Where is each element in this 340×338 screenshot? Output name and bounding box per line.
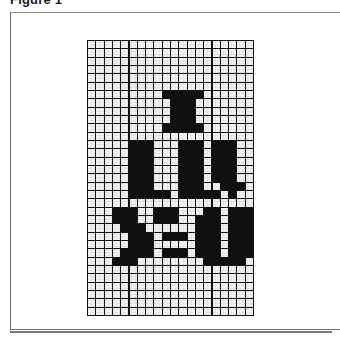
grid-cell[interactable] (163, 91, 170, 98)
grid-cell[interactable] (163, 49, 170, 56)
grid-cell[interactable] (113, 283, 120, 290)
grid-cell[interactable] (221, 208, 228, 215)
grid-cell[interactable] (96, 149, 103, 156)
grid-cell[interactable] (146, 258, 153, 265)
grid-cell[interactable] (113, 224, 120, 231)
grid-cell[interactable] (113, 141, 120, 148)
grid-cell[interactable] (130, 41, 137, 48)
grid-cell[interactable] (105, 166, 112, 173)
grid-cell[interactable] (204, 208, 211, 215)
grid-cell[interactable] (237, 216, 244, 223)
grid-cell[interactable] (221, 91, 228, 98)
grid-cell[interactable] (130, 224, 137, 231)
grid-cell[interactable] (229, 199, 236, 206)
grid-cell[interactable] (196, 274, 203, 281)
grid-cell[interactable] (121, 208, 128, 215)
grid-cell[interactable] (113, 299, 120, 306)
grid-cell[interactable] (213, 283, 220, 290)
grid-cell[interactable] (188, 224, 195, 231)
grid-cell[interactable] (138, 174, 145, 181)
grid-cell[interactable] (188, 299, 195, 306)
grid-cell[interactable] (171, 133, 178, 140)
grid-cell[interactable] (154, 133, 161, 140)
grid-cell[interactable] (179, 308, 186, 315)
grid-cell[interactable] (113, 174, 120, 181)
grid-cell[interactable] (154, 208, 161, 215)
grid-cell[interactable] (96, 266, 103, 273)
grid-cell[interactable] (246, 249, 253, 256)
grid-cell[interactable] (229, 208, 236, 215)
grid-cell[interactable] (179, 108, 186, 115)
grid-cell[interactable] (179, 216, 186, 223)
grid-cell[interactable] (163, 174, 170, 181)
grid-cell[interactable] (130, 274, 137, 281)
grid-cell[interactable] (229, 66, 236, 73)
grid-cell[interactable] (88, 208, 95, 215)
grid-cell[interactable] (121, 174, 128, 181)
grid-cell[interactable] (113, 216, 120, 223)
grid-cell[interactable] (163, 149, 170, 156)
grid-cell[interactable] (113, 291, 120, 298)
grid-cell[interactable] (96, 241, 103, 248)
grid-cell[interactable] (246, 141, 253, 148)
grid-cell[interactable] (246, 149, 253, 156)
grid-cell[interactable] (221, 266, 228, 273)
grid-cell[interactable] (188, 41, 195, 48)
grid-cell[interactable] (96, 258, 103, 265)
grid-cell[interactable] (121, 283, 128, 290)
grid-cell[interactable] (188, 58, 195, 65)
grid-cell[interactable] (146, 308, 153, 315)
grid-cell[interactable] (121, 274, 128, 281)
grid-cell[interactable] (179, 199, 186, 206)
grid-cell[interactable] (138, 91, 145, 98)
grid-cell[interactable] (105, 249, 112, 256)
grid-cell[interactable] (221, 258, 228, 265)
grid-cell[interactable] (221, 174, 228, 181)
grid-cell[interactable] (138, 208, 145, 215)
grid-cell[interactable] (163, 66, 170, 73)
grid-cell[interactable] (163, 249, 170, 256)
grid-cell[interactable] (237, 258, 244, 265)
grid-cell[interactable] (171, 108, 178, 115)
grid-cell[interactable] (121, 191, 128, 198)
grid-cell[interactable] (229, 49, 236, 56)
grid-cell[interactable] (246, 66, 253, 73)
grid-cell[interactable] (121, 41, 128, 48)
grid-cell[interactable] (154, 124, 161, 131)
grid-cell[interactable] (154, 299, 161, 306)
grid-cell[interactable] (130, 266, 137, 273)
grid-cell[interactable] (204, 166, 211, 173)
grid-cell[interactable] (204, 199, 211, 206)
grid-cell[interactable] (221, 49, 228, 56)
grid-cell[interactable] (154, 191, 161, 198)
grid-cell[interactable] (130, 216, 137, 223)
grid-cell[interactable] (130, 174, 137, 181)
grid-cell[interactable] (130, 91, 137, 98)
grid-cell[interactable] (179, 158, 186, 165)
grid-cell[interactable] (88, 191, 95, 198)
grid-cell[interactable] (196, 66, 203, 73)
grid-cell[interactable] (105, 133, 112, 140)
grid-cell[interactable] (88, 299, 95, 306)
grid-cell[interactable] (171, 74, 178, 81)
grid-cell[interactable] (196, 308, 203, 315)
grid-cell[interactable] (179, 291, 186, 298)
grid-cell[interactable] (213, 258, 220, 265)
grid-cell[interactable] (171, 166, 178, 173)
grid-cell[interactable] (163, 158, 170, 165)
grid-cell[interactable] (121, 258, 128, 265)
grid-cell[interactable] (130, 158, 137, 165)
grid-cell[interactable] (138, 116, 145, 123)
grid-cell[interactable] (113, 49, 120, 56)
grid-cell[interactable] (188, 66, 195, 73)
grid-cell[interactable] (146, 58, 153, 65)
grid-cell[interactable] (196, 166, 203, 173)
grid-cell[interactable] (88, 149, 95, 156)
grid-cell[interactable] (213, 99, 220, 106)
grid-cell[interactable] (146, 283, 153, 290)
grid-cell[interactable] (154, 274, 161, 281)
grid-cell[interactable] (221, 124, 228, 131)
grid-cell[interactable] (171, 266, 178, 273)
grid-cell[interactable] (88, 249, 95, 256)
grid-cell[interactable] (130, 74, 137, 81)
